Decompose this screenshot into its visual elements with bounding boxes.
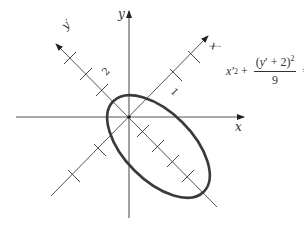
eq-denominator: 9	[272, 72, 278, 88]
x-axis-label: x	[235, 120, 242, 134]
eq-numerator: (y′ + 2)2	[254, 55, 297, 72]
y-axis-label: y	[117, 7, 125, 21]
rotated-ellipse-diagram: y x x′ y′ 2 1	[0, 0, 304, 227]
y-prime-tick-label-2: 2	[100, 65, 112, 77]
x-prime-axis-label: x′	[207, 39, 223, 55]
x-prime-tick-label-1: 1	[169, 86, 181, 98]
origin-point	[127, 115, 131, 119]
eq-equals: =	[302, 64, 304, 79]
ellipse-equation: x′2 + (y′ + 2)2 9 = 1	[226, 55, 304, 88]
y-prime-axis	[56, 44, 217, 207]
eq-plus: +	[241, 64, 248, 79]
eq-x-term: x′	[226, 64, 234, 79]
y-prime-axis-label: y′	[58, 16, 74, 32]
eq-fraction: (y′ + 2)2 9	[254, 55, 297, 88]
